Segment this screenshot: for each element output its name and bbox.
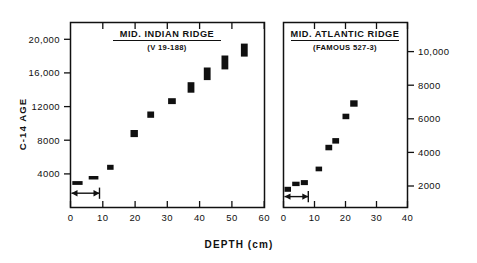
left-xtick-label-2: 20 — [129, 212, 140, 223]
left-ytick-label-1: 8000 — [37, 135, 60, 146]
right-ytick-label-4: 10,000 — [418, 46, 449, 57]
left-xtick-label-0: 0 — [68, 212, 74, 223]
data-marker — [204, 68, 211, 81]
data-marker — [222, 56, 229, 70]
figure-container: 4000 8000 12000 16,000 20,000 0 10 20 30… — [0, 0, 477, 263]
left-y-ticks — [64, 39, 71, 174]
data-marker — [350, 100, 357, 106]
right-y-ticks — [408, 52, 415, 186]
data-marker — [131, 130, 138, 137]
right-error-bar — [285, 191, 309, 202]
data-marker — [147, 112, 154, 118]
data-marker — [292, 182, 299, 186]
right-ytick-label-3: 8000 — [418, 80, 441, 91]
panel-mid-atlantic-ridge: 2000 4000 6000 8000 10,000 0 10 20 30 40… — [281, 23, 450, 224]
left-panel-subtitle: (V 19-188) — [147, 43, 186, 52]
right-ytick-label-1: 4000 — [418, 147, 441, 158]
left-xtick-label-1: 10 — [97, 212, 108, 223]
data-marker — [316, 167, 323, 172]
left-bottom-ticks — [71, 201, 265, 208]
left-panel-title: MID. INDIAN RIDGE — [120, 29, 215, 39]
left-ytick-label-3: 16,000 — [29, 67, 60, 78]
data-marker — [332, 138, 339, 144]
right-panel-subtitle: (FAMOUS 527-3) — [313, 43, 377, 52]
right-ytick-label-0: 2000 — [418, 180, 441, 191]
data-marker — [343, 114, 350, 120]
data-marker — [107, 165, 114, 170]
right-xtick-label-4: 40 — [402, 212, 413, 223]
right-panel-title: MID. ATLANTIC RIDGE — [291, 29, 400, 39]
left-error-bar — [72, 188, 100, 199]
right-ytick-label-2: 6000 — [418, 113, 441, 124]
right-bottom-ticks — [284, 201, 408, 208]
left-data-markers — [72, 44, 247, 185]
left-ytick-label-4: 20,000 — [29, 34, 60, 45]
panel-mid-indian-ridge: 4000 8000 12000 16,000 20,000 0 10 20 30… — [29, 23, 270, 224]
data-marker — [168, 98, 176, 104]
left-xtick-label-5: 50 — [226, 212, 237, 223]
right-data-markers — [285, 100, 358, 192]
two-panel-scatter-figure: 4000 8000 12000 16,000 20,000 0 10 20 30… — [0, 0, 477, 263]
data-marker — [89, 176, 99, 180]
x-axis-title: DEPTH (cm) — [205, 239, 274, 250]
y-axis-title: C-14 AGE — [17, 98, 28, 151]
left-ytick-label-0: 4000 — [37, 168, 60, 179]
left-xtick-label-4: 40 — [194, 212, 205, 223]
left-ytick-label-2: 12000 — [32, 101, 60, 112]
right-xtick-label-0: 0 — [281, 212, 287, 223]
data-marker — [325, 145, 332, 151]
right-xtick-label-1: 10 — [309, 212, 320, 223]
left-xtick-label-6: 60 — [259, 212, 270, 223]
data-marker — [285, 187, 292, 192]
right-xtick-label-2: 20 — [340, 212, 351, 223]
data-marker — [241, 44, 248, 57]
left-xtick-label-3: 30 — [162, 212, 173, 223]
data-marker — [188, 82, 195, 93]
data-marker — [72, 181, 82, 185]
data-marker — [301, 180, 308, 185]
right-xtick-label-3: 30 — [371, 212, 382, 223]
